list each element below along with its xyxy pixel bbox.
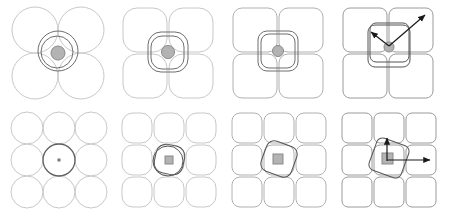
grid-cell xyxy=(11,176,43,208)
grid-cell xyxy=(58,53,104,99)
grid-cell xyxy=(75,144,107,176)
panel-r2c4 xyxy=(330,105,450,221)
grid-cell xyxy=(406,177,436,207)
grid-cell xyxy=(11,144,43,176)
grid-cell xyxy=(232,145,262,175)
grid-cell xyxy=(186,145,216,175)
grid-cell xyxy=(122,113,152,143)
arrow-up-left xyxy=(371,32,389,46)
grid-cell xyxy=(75,112,107,144)
grid-cell xyxy=(123,8,167,52)
panel-r1c2 xyxy=(110,0,225,110)
grid-cell xyxy=(296,177,326,207)
grid-cell xyxy=(154,177,184,207)
grid-cell xyxy=(342,177,372,207)
grid-cell xyxy=(169,8,213,52)
panel-r2c1 xyxy=(0,105,115,221)
grid-cell xyxy=(374,113,404,143)
grid-cell xyxy=(374,177,404,207)
grid-cell xyxy=(169,54,213,98)
panel-r1c1 xyxy=(0,0,115,110)
cell-grid-rounded-squares xyxy=(343,8,433,98)
grid-cell xyxy=(279,54,323,98)
grid-cell xyxy=(389,8,433,52)
grid-cell xyxy=(122,177,152,207)
grid-cell xyxy=(43,112,75,144)
grid-cell xyxy=(233,54,277,98)
center-marker xyxy=(165,156,173,164)
grid-cell xyxy=(406,113,436,143)
grid-cell xyxy=(123,54,167,98)
grid-cell xyxy=(264,113,294,143)
center-marker xyxy=(273,46,284,57)
panel-r2c3 xyxy=(220,105,335,221)
grid-cell xyxy=(264,177,294,207)
grid-cell xyxy=(58,7,104,53)
center-marker xyxy=(51,46,65,60)
grid-cell xyxy=(296,145,326,175)
grid-cell xyxy=(186,177,216,207)
arrow-up-right xyxy=(389,15,425,46)
grid-cell xyxy=(186,113,216,143)
grid-cell xyxy=(43,176,75,208)
grid-cell xyxy=(232,113,262,143)
grid-cell xyxy=(279,8,323,52)
center-marker xyxy=(162,46,175,59)
grid-cell xyxy=(233,8,277,52)
grid-cell xyxy=(154,113,184,143)
panel-r1c3 xyxy=(220,0,335,110)
grid-cell xyxy=(12,7,58,53)
figure-panel-grid xyxy=(0,0,450,221)
grid-cell xyxy=(296,113,326,143)
center-marker xyxy=(58,159,61,162)
panel-r2c2 xyxy=(110,105,225,221)
grid-cell xyxy=(12,53,58,99)
grid-cell xyxy=(75,176,107,208)
grid-cell xyxy=(122,145,152,175)
grid-cell xyxy=(11,112,43,144)
center-marker xyxy=(273,154,283,164)
grid-cell xyxy=(343,54,387,98)
grid-cell xyxy=(342,113,372,143)
grid-cell xyxy=(389,54,433,98)
panel-r1c4 xyxy=(330,0,450,110)
grid-cell xyxy=(342,145,372,175)
grid-cell xyxy=(343,8,387,52)
grid-cell xyxy=(232,177,262,207)
